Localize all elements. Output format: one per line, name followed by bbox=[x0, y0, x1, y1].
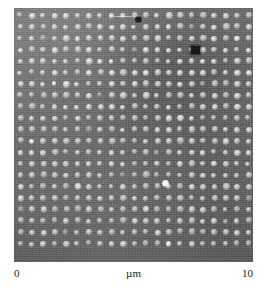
lattice-dot bbox=[234, 184, 240, 190]
lattice-dot bbox=[63, 81, 69, 87]
lattice-dot bbox=[223, 219, 228, 224]
lattice-dot bbox=[200, 104, 206, 110]
lattice-dot bbox=[97, 218, 102, 223]
lattice-dot bbox=[166, 12, 172, 18]
lattice-dot bbox=[154, 206, 160, 212]
lattice-dot bbox=[86, 229, 92, 235]
lattice-dot bbox=[212, 138, 218, 144]
lattice-dot bbox=[86, 219, 91, 224]
lattice-dot bbox=[18, 241, 23, 246]
lattice-dot bbox=[18, 81, 24, 87]
lattice-dot bbox=[212, 104, 218, 110]
lattice-dot bbox=[40, 138, 45, 143]
lattice-dot bbox=[177, 59, 183, 65]
lattice-dot bbox=[132, 161, 137, 166]
lattice-dot bbox=[223, 229, 229, 235]
lattice-dot bbox=[86, 195, 92, 201]
lattice-dot bbox=[189, 184, 195, 190]
dot-lattice bbox=[14, 8, 253, 262]
lattice-dot bbox=[29, 218, 35, 224]
lattice-dot bbox=[177, 241, 182, 246]
lattice-dot bbox=[143, 183, 149, 189]
lattice-dot bbox=[200, 229, 206, 235]
lattice-dot bbox=[97, 115, 103, 121]
lattice-dot bbox=[52, 126, 58, 132]
lattice-dot bbox=[200, 150, 205, 155]
lattice-dot bbox=[29, 81, 35, 87]
lattice-dot bbox=[143, 149, 149, 155]
lattice-dot bbox=[52, 149, 58, 155]
lattice-dot bbox=[200, 70, 206, 76]
lattice-dot bbox=[120, 138, 126, 144]
lattice-dot bbox=[143, 229, 148, 234]
lattice-dot bbox=[120, 47, 125, 52]
lattice-dot bbox=[212, 93, 218, 99]
lattice-dot bbox=[200, 173, 205, 178]
lattice-dot bbox=[40, 241, 45, 246]
lattice-dot bbox=[155, 138, 161, 144]
lattice-dot bbox=[86, 161, 91, 166]
lattice-dot bbox=[234, 240, 239, 245]
lattice-dot bbox=[166, 218, 172, 224]
lattice-dot bbox=[177, 137, 183, 143]
lattice-dot bbox=[189, 150, 195, 156]
lattice-dot bbox=[63, 25, 68, 30]
lattice-dot bbox=[200, 12, 206, 18]
lattice-dot bbox=[29, 126, 35, 132]
lattice-dot bbox=[166, 138, 172, 144]
lattice-dot bbox=[246, 70, 252, 76]
lattice-dot bbox=[18, 103, 23, 108]
lattice-dot bbox=[234, 58, 240, 64]
lattice-dot bbox=[109, 46, 115, 52]
lattice-dot bbox=[212, 184, 218, 190]
lattice-dot bbox=[29, 195, 34, 200]
lattice-dot bbox=[166, 70, 172, 76]
lattice-dot bbox=[97, 241, 103, 247]
lattice-dot bbox=[52, 161, 58, 167]
lattice-dot bbox=[189, 126, 195, 132]
lattice-dot bbox=[177, 126, 182, 131]
lattice-dot bbox=[211, 69, 217, 75]
lattice-dot bbox=[18, 126, 24, 132]
lattice-dot bbox=[200, 196, 205, 201]
micrograph-image bbox=[14, 8, 253, 262]
lattice-dot bbox=[52, 59, 57, 64]
lattice-dot bbox=[177, 150, 182, 155]
lattice-dot bbox=[211, 25, 216, 30]
lattice-dot bbox=[75, 13, 81, 19]
lattice-dot bbox=[223, 207, 228, 212]
lattice-dot bbox=[223, 138, 229, 144]
lattice-dot bbox=[189, 93, 195, 99]
lattice-dot bbox=[166, 48, 171, 53]
lattice-dot bbox=[40, 58, 46, 64]
lattice-dot bbox=[29, 139, 34, 144]
lattice-dot bbox=[29, 46, 35, 52]
lattice-dot bbox=[41, 24, 47, 30]
lattice-dot bbox=[98, 69, 104, 75]
lattice-dot bbox=[109, 195, 114, 200]
lattice-dot bbox=[97, 173, 102, 178]
lattice-dot bbox=[223, 48, 228, 53]
lattice-dot bbox=[86, 126, 92, 132]
lattice-dot bbox=[177, 173, 182, 178]
lattice-dot bbox=[18, 217, 24, 223]
lattice-dot bbox=[143, 35, 149, 41]
lattice-dot bbox=[143, 218, 148, 223]
lattice-dot bbox=[74, 82, 79, 87]
lattice-dot bbox=[154, 172, 159, 177]
lattice-dot bbox=[41, 206, 47, 212]
lattice-dot bbox=[98, 206, 104, 212]
lattice-dot bbox=[211, 229, 216, 234]
lattice-dot bbox=[246, 81, 252, 87]
lattice-dot bbox=[109, 207, 114, 212]
lattice-dot bbox=[86, 81, 91, 86]
lattice-dot bbox=[132, 126, 137, 131]
lattice-dot bbox=[109, 218, 115, 224]
lattice-dot bbox=[234, 195, 240, 201]
lattice-dot bbox=[120, 58, 126, 64]
lattice-dot bbox=[29, 230, 35, 236]
lattice-dot bbox=[41, 230, 47, 236]
lattice-dot bbox=[18, 172, 24, 178]
lattice-dot bbox=[63, 92, 69, 98]
lattice-dot bbox=[52, 184, 57, 189]
